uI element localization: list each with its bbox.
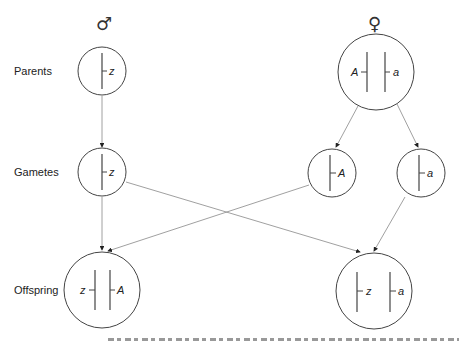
male-parent-cell: z [78, 47, 126, 95]
female-gamete-a-cell: a [397, 149, 445, 197]
arrow-gamete-A-to-left-offspring [108, 185, 309, 251]
arrow-female-to-gamete-a [397, 104, 418, 147]
row-label-parents: Parents [14, 65, 52, 77]
offspring-right-cell: z a [336, 253, 412, 329]
row-label-gametes: Gametes [14, 166, 59, 178]
allele-label: z [108, 65, 115, 77]
inheritance-diagram: ♂ ♀ z A a z A a [0, 0, 459, 344]
offspring-left-cell: z A [64, 252, 140, 328]
allele-label: a [393, 66, 399, 78]
allele-label: a [427, 167, 433, 179]
female-symbol-icon: ♀ [368, 13, 381, 34]
arrow-gamete-a-to-right-offspring [374, 197, 405, 251]
allele-label: z [79, 284, 86, 296]
allele-label: A [337, 167, 345, 179]
allele-label: z [365, 285, 372, 297]
allele-label: A [350, 66, 358, 78]
female-parent-cell: A a [338, 34, 414, 110]
male-symbol-icon: ♂ [96, 13, 112, 34]
male-gamete-cell: z [78, 148, 126, 196]
arrow-male-gamete-to-right-offspring [126, 182, 360, 252]
caption-cut-off [108, 334, 459, 344]
female-gamete-A-cell: A [308, 149, 356, 197]
allele-label: z [108, 166, 115, 178]
allele-label: A [116, 284, 124, 296]
arrow-female-to-gamete-A [336, 106, 358, 147]
allele-label: a [398, 285, 404, 297]
row-label-offspring: Offspring [14, 284, 58, 296]
